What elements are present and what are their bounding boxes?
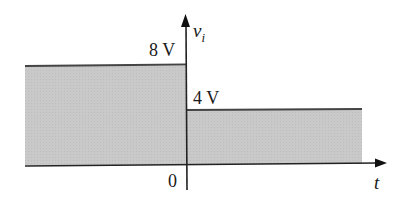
high-level-line	[25, 65, 186, 67]
low-region-fill	[186, 110, 362, 164]
y-axis-label: vi	[193, 20, 205, 45]
high-region-fill	[25, 66, 186, 165]
step-waveform-diagram: vi 8 V 4 V 0 t	[0, 0, 409, 199]
x-axis-arrow-icon	[375, 159, 387, 168]
high-level-label: 8 V	[149, 40, 175, 60]
low-level-label: 4 V	[193, 88, 219, 108]
y-axis-arrow-icon	[181, 14, 190, 27]
low-level-line	[187, 109, 362, 110]
x-axis-label: t	[374, 172, 380, 193]
origin-label: 0	[168, 171, 177, 191]
y-axis	[186, 24, 187, 190]
